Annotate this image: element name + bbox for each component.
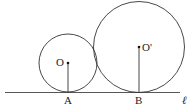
label-l: ℓ bbox=[182, 94, 187, 106]
diagram: O O' A B ℓ bbox=[0, 0, 192, 108]
label-a: A bbox=[64, 94, 72, 106]
geometry-figure: O O' A B ℓ bbox=[0, 0, 192, 108]
center-o-prime-dot bbox=[138, 46, 141, 49]
label-o: O bbox=[56, 56, 64, 68]
label-o-prime: O' bbox=[142, 41, 152, 53]
center-o-dot bbox=[67, 62, 70, 65]
label-b: B bbox=[135, 94, 142, 106]
